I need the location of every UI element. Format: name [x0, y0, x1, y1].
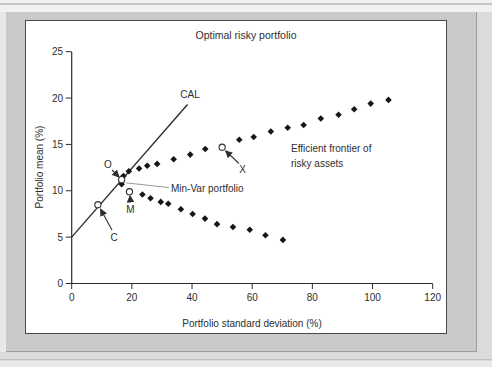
svg-text:80: 80 [307, 292, 319, 303]
svg-text:10: 10 [52, 185, 64, 196]
chart-panel: 0510152025020406080100120 Optimal risky … [25, 20, 447, 334]
svg-text:120: 120 [424, 292, 441, 303]
svg-text:25: 25 [52, 46, 64, 57]
svg-text:5: 5 [57, 232, 63, 243]
svg-text:20: 20 [52, 93, 64, 104]
svg-text:40: 40 [186, 292, 198, 303]
page-top-rule [0, 3, 492, 5]
page-bottom-rule [0, 359, 492, 360]
svg-text:0: 0 [57, 278, 63, 289]
point-label-c: C [110, 231, 117, 242]
svg-text:100: 100 [364, 292, 381, 303]
point-label-o: O [104, 158, 112, 169]
svg-text:15: 15 [52, 139, 64, 150]
svg-text:60: 60 [247, 292, 259, 303]
efficient-frontier-label: Efficient frontier of risky assets [291, 141, 371, 171]
efficient-frontier-label-line2: risky assets [291, 156, 371, 171]
chart-title: Optimal risky portfolio [196, 29, 297, 41]
page: { "figure": { "title": "Optimal risky po… [0, 0, 492, 367]
x-axis-label: Portfolio standard deviation (%) [182, 318, 322, 329]
point-label-x: X [239, 164, 246, 175]
efficient-frontier-label-line1: Efficient frontier of [291, 141, 371, 156]
page-top-edge [0, 0, 492, 12]
page-right-edge [477, 12, 492, 353]
min-var-portfolio-label: Min-Var portfolio [171, 183, 244, 194]
chart-canvas: 0510152025020406080100120 [26, 21, 446, 333]
page-bottom-light [0, 361, 492, 367]
svg-text:20: 20 [126, 292, 138, 303]
y-axis-label: Portfolio mean (%) [34, 126, 45, 209]
cal-line-label: CAL [180, 89, 199, 100]
point-label-m: M [126, 204, 134, 215]
svg-text:0: 0 [69, 292, 75, 303]
